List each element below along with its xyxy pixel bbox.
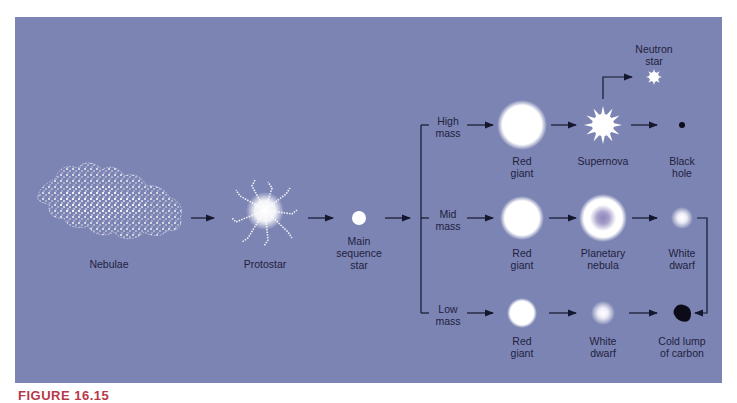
label-line: mass (435, 220, 460, 232)
label-line: hole (669, 167, 695, 179)
label-main-sequence-star: Main sequence star (336, 235, 382, 271)
red-giant-mid-icon (500, 196, 544, 240)
label-line: Black (669, 155, 695, 167)
label-line: White (590, 335, 617, 347)
label-line: nebula (581, 259, 625, 271)
label-low-mass: Low mass (435, 303, 460, 327)
label-line: Red (511, 155, 534, 167)
label-neutron-star: Neutron star (635, 43, 672, 67)
neutron-star-icon (646, 69, 662, 85)
label-nebulae: Nebulae (89, 258, 128, 270)
label-line: Red (511, 247, 534, 259)
label-high-mass: High mass (435, 115, 460, 139)
white-dwarf-low-icon (591, 301, 615, 325)
black-hole-icon (679, 122, 685, 128)
label-line: giant (511, 259, 534, 271)
label-line: sequence (336, 247, 382, 259)
label-line: dwarf (669, 259, 696, 271)
label-line: mass (435, 315, 460, 327)
label-line: giant (511, 167, 534, 179)
label-line: High (435, 115, 460, 127)
label-red-giant-low: Red giant (511, 335, 534, 359)
label-line: giant (511, 347, 534, 359)
mass-branch-bracket (421, 125, 429, 313)
figure-caption: FIGURE 16.15 (18, 388, 109, 403)
label-line: White (669, 247, 696, 259)
nebulae-icon (38, 163, 182, 239)
supernova-icon (584, 106, 622, 144)
label-planetary-nebula: Planetary nebula (581, 247, 625, 271)
label-line: star (336, 259, 382, 271)
label-mid-mass: Mid mass (435, 208, 460, 232)
label-line: of carbon (658, 347, 705, 359)
label-line: Mid (435, 208, 460, 220)
label-line: Red (511, 335, 534, 347)
label-white-dwarf-mid: White dwarf (669, 247, 696, 271)
label-red-giant-high: Red giant (511, 155, 534, 179)
white-dwarf-mid-icon (671, 207, 693, 229)
label-line: Cold lump (658, 335, 705, 347)
protostar-icon (232, 180, 297, 246)
label-line: Main (336, 235, 382, 247)
label-line: dwarf (590, 347, 617, 359)
label-line: Neutron (635, 43, 672, 55)
label-red-giant-mid: Red giant (511, 247, 534, 271)
label-cold-lump-of-carbon: Cold lump of carbon (658, 335, 705, 359)
label-line: star (635, 55, 672, 67)
planetary-nebula-icon (579, 194, 627, 242)
label-line: mass (435, 127, 460, 139)
red-giant-low-icon (507, 298, 537, 328)
label-black-hole: Black hole (669, 155, 695, 179)
red-giant-high-icon (497, 100, 547, 150)
label-protostar: Protostar (244, 258, 287, 270)
cold-lump-of-carbon-icon (674, 305, 692, 322)
label-supernova: Supernova (578, 155, 629, 167)
label-line: Low (435, 303, 460, 315)
label-line: Planetary (581, 247, 625, 259)
main-sequence-star-icon (352, 211, 366, 225)
label-white-dwarf-low: White dwarf (590, 335, 617, 359)
